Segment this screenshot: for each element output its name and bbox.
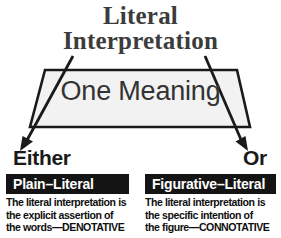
definition-header-figurative-literal: Figurative–Literal — [145, 174, 276, 194]
definition-body-line: the figure—CONNOTATIVE — [145, 221, 271, 234]
definition-body-line: The literal interpretation is — [145, 196, 271, 209]
definition-body-figurative-literal: The literal interpretation is the specif… — [145, 196, 271, 234]
literal-interpretation-diagram: Literal Interpretation One Meaning Eithe… — [0, 0, 281, 238]
definition-box-figurative-literal: Figurative–Literal The literal interpret… — [145, 174, 276, 234]
branch-label-or: Or — [243, 147, 267, 168]
definition-body-line: the specific intention of — [145, 209, 271, 222]
one-meaning-label: One Meaning — [0, 78, 281, 105]
definition-body-line: the words—DENOTATIVE — [6, 221, 124, 234]
definition-body-line: The literal interpretation is — [6, 196, 124, 209]
branch-label-either: Either — [13, 147, 71, 168]
definition-header-plain-literal: Plain–Literal — [6, 174, 129, 194]
definition-body-plain-literal: The literal interpretation is the explic… — [6, 196, 124, 234]
definition-body-line: the explicit assertion of — [6, 209, 124, 222]
definition-box-plain-literal: Plain–Literal The literal interpretation… — [6, 174, 129, 234]
